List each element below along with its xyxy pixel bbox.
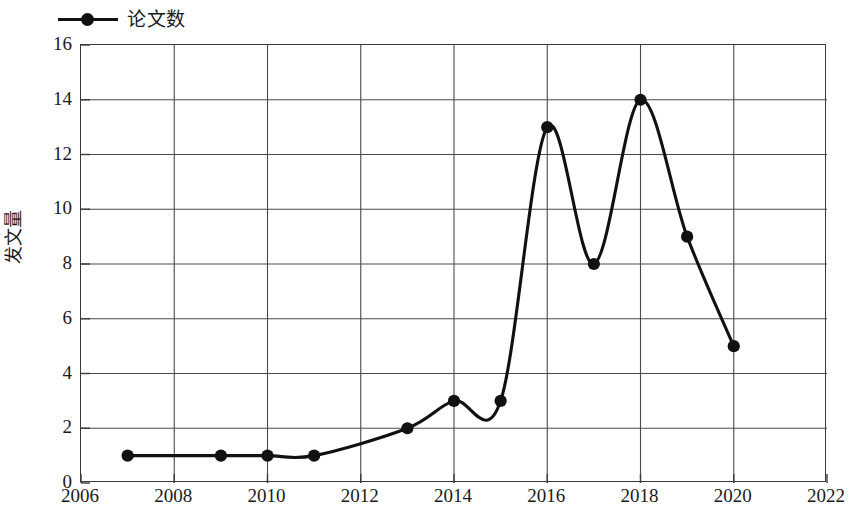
y-axis-tick-label: 12 (12, 144, 72, 163)
x-axis-tick-label: 2006 (40, 486, 120, 505)
legend-entry-label: 论文数 (127, 10, 186, 29)
y-axis-tick-label: 6 (12, 308, 72, 327)
x-axis-tick-label: 2008 (133, 486, 213, 505)
y-axis-tick-label: 8 (12, 253, 72, 272)
data-series-layer (81, 45, 827, 483)
x-axis-tick-label: 2018 (600, 486, 680, 505)
y-axis-tick-label: 14 (12, 89, 72, 108)
x-axis-tick-label: 2010 (227, 486, 307, 505)
y-axis-tick-label: 10 (12, 198, 72, 217)
x-axis-tick-label: 2016 (506, 486, 586, 505)
y-axis-tick-label: 2 (12, 417, 72, 436)
legend-marker-line-icon (58, 11, 118, 27)
x-axis-tick-label: 2020 (693, 486, 773, 505)
chart-legend: 论文数 (58, 4, 186, 34)
y-axis-tick-label: 16 (12, 34, 72, 53)
x-axis-tick-label: 2012 (320, 486, 400, 505)
x-axis-tick-label: 2014 (413, 486, 493, 505)
plot-area (80, 44, 826, 482)
x-axis-tick-label: 2022 (786, 486, 849, 505)
y-axis-tick-label: 4 (12, 363, 72, 382)
